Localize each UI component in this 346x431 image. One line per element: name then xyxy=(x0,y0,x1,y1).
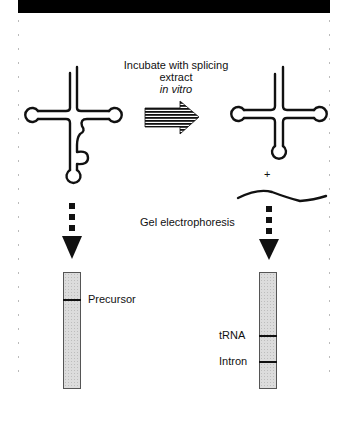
left-dashed-arrow-icon xyxy=(62,203,82,259)
trna-band xyxy=(259,335,277,337)
trna-label: tRNA xyxy=(219,329,245,341)
precursor-band xyxy=(63,299,81,301)
precursor-label: Precursor xyxy=(88,293,136,305)
gel-step-label: Gel electrophoresis xyxy=(140,216,235,228)
mature-trna-icon xyxy=(231,67,326,159)
gel-lane-precursor xyxy=(63,272,81,389)
pre-trna-icon xyxy=(25,67,121,183)
gel-lane-products xyxy=(259,272,277,389)
incubate-line3: in vitro xyxy=(120,83,232,95)
incubate-line2: extract xyxy=(120,71,232,83)
incubate-arrow-icon xyxy=(145,101,199,134)
intron-strand-icon xyxy=(238,191,326,201)
incubate-step-label: Incubate with splicing extract in vitro xyxy=(120,59,232,95)
plus-sign: + xyxy=(264,168,270,180)
intron-label: Intron xyxy=(219,355,247,367)
intron-band xyxy=(259,361,277,363)
right-dashed-arrow-icon xyxy=(259,206,279,260)
incubate-line1: Incubate with splicing xyxy=(120,59,232,71)
